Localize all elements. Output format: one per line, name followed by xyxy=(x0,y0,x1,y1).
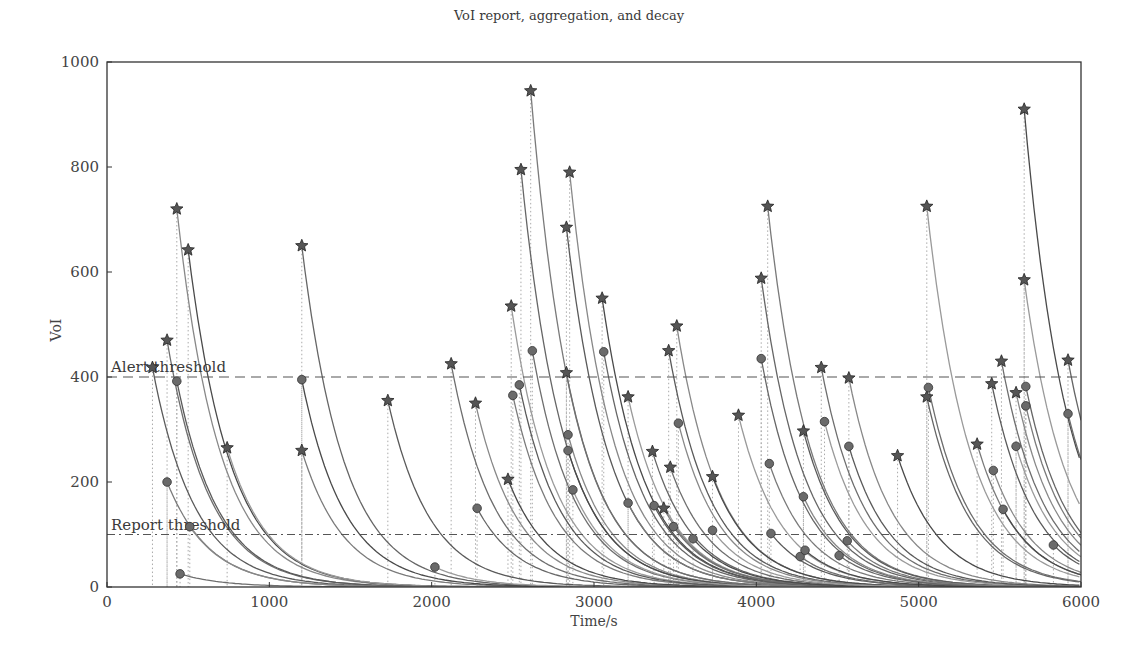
circle-marker xyxy=(624,499,633,508)
decay-curve xyxy=(898,456,1080,585)
star-marker xyxy=(646,445,658,457)
plot-area: Alert thresholdReport threshold 01000200… xyxy=(0,0,1138,661)
star-marker xyxy=(843,372,855,384)
circle-marker xyxy=(1049,541,1058,550)
circle-marker xyxy=(1012,442,1021,451)
star-marker xyxy=(891,449,903,461)
star-marker xyxy=(797,425,809,437)
x-tick-label: 2000 xyxy=(413,593,451,611)
circle-marker xyxy=(801,546,810,555)
x-tick-label: 4000 xyxy=(737,593,775,611)
circle-marker xyxy=(569,486,578,495)
circle-marker xyxy=(1022,402,1031,411)
circle-marker xyxy=(924,383,933,392)
circle-marker xyxy=(820,417,829,426)
decay-curve xyxy=(1024,280,1079,504)
circle-marker xyxy=(669,522,678,531)
circle-marker xyxy=(835,551,844,560)
decay-curve xyxy=(1068,414,1081,460)
star-marker xyxy=(732,409,744,421)
y-tick-label: 800 xyxy=(70,158,99,176)
circle-marker xyxy=(298,375,307,384)
circle-marker xyxy=(650,501,659,510)
y-tick-label: 400 xyxy=(70,368,99,386)
x-tick-label: 3000 xyxy=(575,593,613,611)
decay-curve xyxy=(1026,406,1081,538)
decay-curve xyxy=(849,378,1080,586)
decay-curve xyxy=(519,385,1006,587)
x-tick-label: 6000 xyxy=(1062,593,1100,611)
y-tick-label: 0 xyxy=(89,578,99,596)
star-marker xyxy=(986,377,998,389)
circle-marker xyxy=(173,377,182,386)
circle-marker xyxy=(185,522,194,531)
star-marker xyxy=(995,355,1007,367)
circle-marker xyxy=(708,526,717,535)
circle-marker xyxy=(599,348,608,357)
decay-curve xyxy=(177,209,664,587)
star-marker xyxy=(469,397,481,409)
star-marker xyxy=(815,361,827,373)
circle-marker xyxy=(564,446,573,455)
y-tick-label: 1000 xyxy=(61,53,99,71)
circle-marker xyxy=(564,430,573,439)
report-threshold-label: Report threshold xyxy=(111,516,241,534)
circle-marker xyxy=(765,459,774,468)
y-axis-ticks: 02004006008001000 xyxy=(61,53,112,596)
circle-marker xyxy=(757,354,766,363)
y-tick-label: 200 xyxy=(70,473,99,491)
star-marker xyxy=(622,390,634,402)
decay-curve xyxy=(302,246,789,587)
x-axis-label: Time/s xyxy=(570,613,617,629)
circle-marker xyxy=(528,346,537,355)
circle-marker xyxy=(845,442,854,451)
decay-curve xyxy=(570,172,1057,587)
circle-marker xyxy=(689,534,698,543)
star-marker xyxy=(502,473,514,485)
plot-frame xyxy=(107,62,1081,587)
data-markers xyxy=(146,84,1074,578)
threshold-lines: Alert thresholdReport threshold xyxy=(107,358,1081,535)
y-tick-label: 600 xyxy=(70,263,99,281)
circle-marker xyxy=(999,505,1008,514)
x-tick-label: 0 xyxy=(102,593,112,611)
y-axis-label: VoI xyxy=(48,319,64,343)
circle-marker xyxy=(163,478,172,487)
x-tick-label: 1000 xyxy=(250,593,288,611)
star-marker xyxy=(706,470,718,482)
alert-threshold-label: Alert threshold xyxy=(110,358,226,376)
circle-marker xyxy=(509,391,518,400)
circle-marker xyxy=(176,570,185,579)
decay-curve xyxy=(928,388,1081,582)
decay-curve xyxy=(628,503,1079,587)
circle-marker xyxy=(431,563,440,572)
circle-marker xyxy=(799,492,808,501)
circle-marker xyxy=(843,537,852,546)
decay-curve xyxy=(670,467,1079,587)
x-tick-label: 5000 xyxy=(900,593,938,611)
circle-marker xyxy=(674,419,683,428)
circle-marker xyxy=(515,381,524,390)
decay-curve xyxy=(669,351,1081,587)
circle-marker xyxy=(473,504,482,513)
decay-curve xyxy=(927,206,1080,576)
circle-marker xyxy=(767,529,776,538)
star-marker xyxy=(971,438,983,450)
circle-marker xyxy=(1064,409,1073,418)
star-marker xyxy=(1010,386,1022,398)
circle-marker xyxy=(989,466,998,475)
decay-curves xyxy=(153,91,1082,587)
decay-curve xyxy=(1024,109,1079,458)
star-marker xyxy=(664,461,676,473)
star-marker xyxy=(382,394,394,406)
star-marker xyxy=(1062,354,1074,366)
circle-marker xyxy=(1022,382,1031,391)
